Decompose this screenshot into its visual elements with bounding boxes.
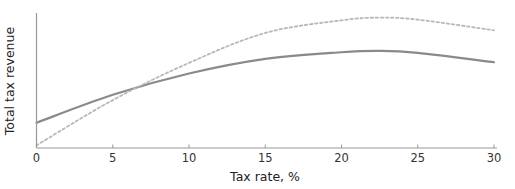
x-tick-label: 20 (334, 151, 349, 165)
x-tick-label: 10 (182, 151, 197, 165)
dotted-revenue-curve (37, 18, 495, 146)
x-tick-label: 15 (258, 151, 273, 165)
x-tick-label: 25 (410, 151, 425, 165)
laffer-curve-chart: 051015202530 Tax rate, % Total tax reven… (0, 0, 515, 189)
x-axis-title: Tax rate, % (229, 169, 300, 184)
y-axis-title: Total tax revenue (2, 27, 17, 137)
x-tick-label: 0 (33, 151, 40, 165)
solid-revenue-curve (37, 51, 495, 123)
x-tick-label: 30 (487, 151, 502, 165)
curves-layer (37, 18, 495, 146)
chart-canvas: 051015202530 Tax rate, % Total tax reven… (0, 0, 515, 189)
x-tick-label: 5 (109, 151, 116, 165)
